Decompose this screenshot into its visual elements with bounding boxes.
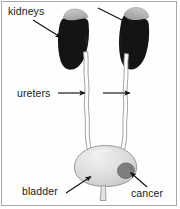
bladder <box>74 146 136 201</box>
ureter-left <box>84 52 93 154</box>
label-bladder: bladder <box>22 186 58 197</box>
label-kidneys: kidneys <box>8 6 44 17</box>
label-cancer: cancer <box>131 188 163 199</box>
ureter-right <box>119 54 129 154</box>
urinary-system-illustration <box>0 0 180 209</box>
arrow-bladder <box>66 177 91 194</box>
arrow-kidney-right <box>98 8 127 23</box>
label-ureters: ureters <box>17 88 50 99</box>
kidney-right-body <box>119 16 149 70</box>
diagram-canvas: kidneys ureters bladder cancer <box>0 0 180 209</box>
kidney-right <box>119 7 149 69</box>
arrow-kidney-left <box>33 20 61 38</box>
arrow-cancer <box>131 173 148 188</box>
tumor <box>118 163 135 178</box>
urethra <box>100 186 106 201</box>
ureter-right-outline <box>119 54 129 154</box>
ureter-left-outline <box>84 52 93 154</box>
